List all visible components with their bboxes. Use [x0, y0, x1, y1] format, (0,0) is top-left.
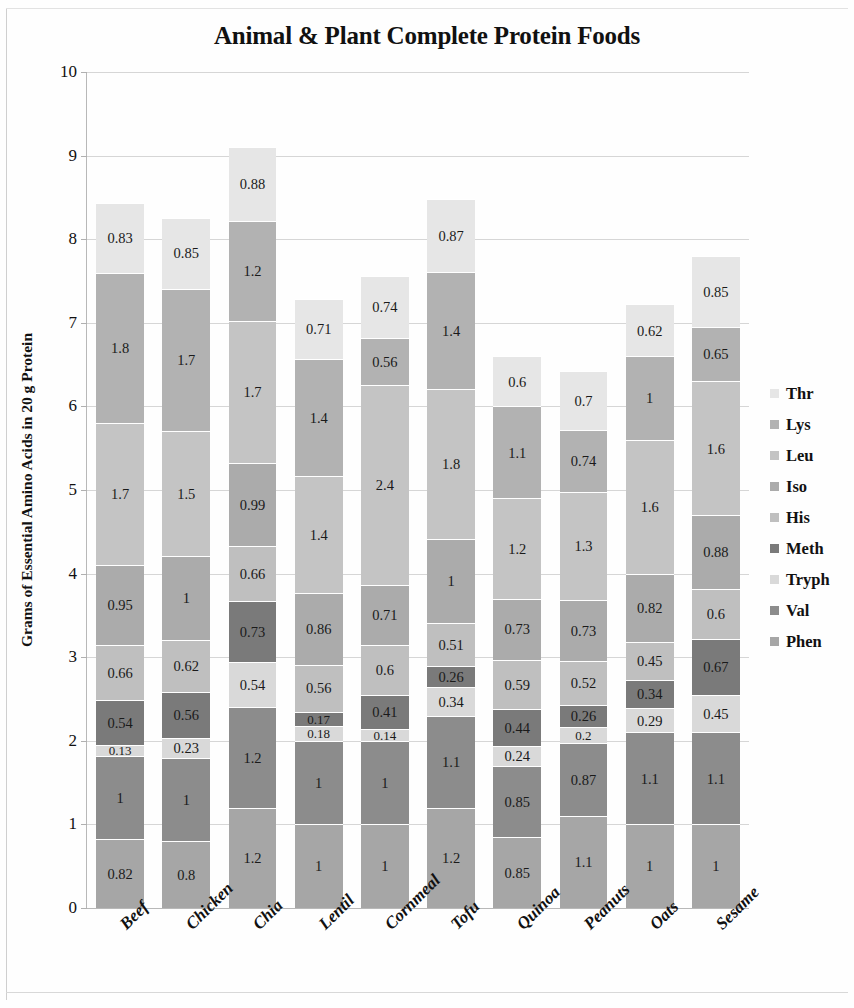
- legend-label: Meth: [786, 539, 824, 559]
- bar-segment-tryph: 0.2: [560, 727, 608, 744]
- bar-segment-lys: 1.4: [427, 272, 475, 389]
- bar-segment-tryph: 0.18: [295, 726, 343, 741]
- bar-segment-thr: 0.6: [493, 356, 541, 406]
- bar-segment-leu: 1.5: [162, 431, 210, 556]
- bar-segment-his: 0.59: [493, 660, 541, 709]
- legend-item-iso[interactable]: Iso: [770, 471, 854, 502]
- bar-segment-thr: 0.83: [96, 203, 144, 272]
- bar-tofu[interactable]: 1.21.10.340.260.5111.81.40.87: [427, 199, 475, 908]
- bar-segment-leu: 1.7: [229, 321, 277, 463]
- bar-segment-tryph: 0.23: [162, 738, 210, 757]
- bar-segment-iso: 0.71: [361, 585, 409, 644]
- page-border-top: [6, 8, 848, 9]
- legend-item-thr[interactable]: Thr: [770, 378, 854, 409]
- legend-item-leu[interactable]: Leu: [770, 440, 854, 471]
- bar-segment-his: 0.45: [626, 642, 674, 680]
- bar-segment-iso: 1: [427, 539, 475, 623]
- y-tick-label: 6: [69, 396, 78, 416]
- legend-label: Phen: [786, 632, 822, 652]
- bar-segment-meth: 0.44: [493, 709, 541, 746]
- legend-swatch-icon: [770, 482, 779, 491]
- bar-segment-his: 0.66: [96, 645, 144, 700]
- bar-segment-thr: 0.74: [361, 276, 409, 338]
- bar-segment-tryph: 0.24: [493, 746, 541, 766]
- bar-segment-leu: 2.4: [361, 385, 409, 586]
- y-tick-mark: [81, 239, 87, 240]
- bar-segment-meth: 0.17: [295, 712, 343, 726]
- bar-segment-lys: 0.65: [692, 327, 740, 381]
- bar-segment-lys: 0.56: [361, 338, 409, 385]
- bar-segment-phen: 1: [626, 824, 674, 908]
- y-tick-mark: [81, 824, 87, 825]
- plot-area: 012345678910 0.8210.130.540.660.951.71.8…: [86, 72, 749, 909]
- y-tick-mark: [81, 156, 87, 157]
- y-tick-label: 4: [69, 564, 78, 584]
- page-border-bottom: [6, 992, 848, 993]
- bar-segment-leu: 1.3: [560, 492, 608, 601]
- legend-swatch-icon: [770, 451, 779, 460]
- legend-item-lys[interactable]: Lys: [770, 409, 854, 440]
- bar-peanuts[interactable]: 1.10.870.20.260.520.731.30.740.7: [560, 371, 608, 908]
- y-tick-mark: [81, 908, 87, 909]
- y-tick-mark: [81, 323, 87, 324]
- y-tick-label: 2: [69, 731, 78, 751]
- legend-swatch-icon: [770, 420, 779, 429]
- bar-segment-val: 1: [295, 741, 343, 825]
- bar-segment-val: 1.1: [692, 732, 740, 824]
- bar-segment-val: 0.87: [560, 743, 608, 816]
- bar-sesame[interactable]: 11.10.450.670.60.881.60.650.85: [692, 256, 740, 908]
- bar-beef[interactable]: 0.8210.130.540.660.951.71.80.83: [96, 203, 144, 908]
- bar-segment-val: 1.1: [427, 716, 475, 808]
- bar-chicken[interactable]: 0.810.230.560.6211.51.70.85: [162, 218, 210, 908]
- y-tick-mark: [81, 406, 87, 407]
- legend-swatch-icon: [770, 544, 779, 553]
- bar-segment-val: 1: [96, 756, 144, 840]
- bar-segment-val: 0.85: [493, 766, 541, 837]
- y-tick-label: 9: [69, 146, 78, 166]
- bar-segment-lys: 1.1: [493, 406, 541, 498]
- bar-segment-lys: 0.74: [560, 430, 608, 492]
- y-tick-label: 7: [69, 313, 78, 333]
- bar-cornmeal[interactable]: 110.140.410.60.712.40.560.74: [361, 276, 409, 908]
- legend-item-his[interactable]: His: [770, 502, 854, 533]
- bar-segment-thr: 0.88: [229, 147, 277, 221]
- legend-label: Leu: [786, 446, 814, 466]
- bar-lentil[interactable]: 110.180.170.560.861.41.40.71: [295, 299, 343, 908]
- legend-item-meth[interactable]: Meth: [770, 533, 854, 564]
- bar-quinoa[interactable]: 0.850.850.240.440.590.731.21.10.6: [493, 356, 541, 908]
- y-tick-label: 1: [69, 814, 78, 834]
- legend-swatch-icon: [770, 637, 779, 646]
- bar-oats[interactable]: 11.10.290.340.450.821.610.62: [626, 304, 674, 908]
- legend-item-tryph[interactable]: Tryph: [770, 564, 854, 595]
- bar-segment-phen: 1: [295, 824, 343, 908]
- bar-segment-tryph: 0.13: [96, 745, 144, 756]
- y-tick-label: 5: [69, 480, 78, 500]
- legend-item-phen[interactable]: Phen: [770, 626, 854, 657]
- bar-segment-his: 0.66: [229, 546, 277, 601]
- y-tick-mark: [81, 657, 87, 658]
- chart-title: Animal & Plant Complete Protein Foods: [0, 22, 854, 50]
- bar-segment-iso: 0.73: [493, 599, 541, 660]
- bar-segment-leu: 1.2: [493, 498, 541, 598]
- bar-segment-meth: 0.73: [229, 601, 277, 662]
- legend-item-val[interactable]: Val: [770, 595, 854, 626]
- y-tick-mark: [81, 490, 87, 491]
- bar-segment-his: 0.52: [560, 661, 608, 704]
- y-tick-mark: [81, 574, 87, 575]
- bar-segment-iso: 0.88: [692, 515, 740, 589]
- bar-segment-thr: 0.85: [692, 256, 740, 327]
- bar-segment-his: 0.56: [295, 665, 343, 712]
- bar-segment-iso: 0.82: [626, 574, 674, 643]
- bar-segment-iso: 0.99: [229, 463, 277, 546]
- bar-segment-his: 0.51: [427, 623, 475, 666]
- bar-segment-lys: 1.2: [229, 221, 277, 321]
- legend-label: Iso: [786, 477, 807, 497]
- bar-segment-iso: 1: [162, 556, 210, 640]
- bar-segment-iso: 0.86: [295, 593, 343, 665]
- bar-segment-val: 1.2: [229, 707, 277, 807]
- bar-chia[interactable]: 1.21.20.540.730.660.991.71.20.88: [229, 147, 277, 908]
- bar-segment-leu: 1.4: [295, 476, 343, 593]
- bar-segment-lys: 1.8: [96, 273, 144, 423]
- bar-segment-meth: 0.54: [96, 700, 144, 745]
- legend-label: Lys: [786, 415, 811, 435]
